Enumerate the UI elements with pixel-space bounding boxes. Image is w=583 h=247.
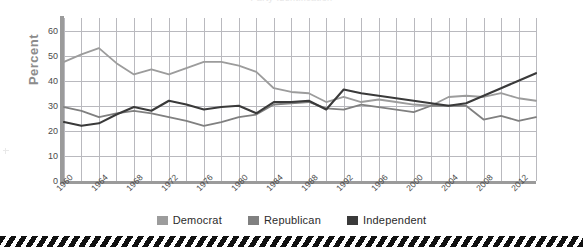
line-chart: Percent 6050403020100 196019641968197219… <box>0 6 583 228</box>
y-tick-label: 40 <box>26 77 58 86</box>
series-line-republican <box>64 102 536 126</box>
gridline-vertical <box>536 18 537 181</box>
y-tick-label: 10 <box>26 152 58 161</box>
y-axis-tick-labels: 6050403020100 <box>22 18 58 181</box>
y-tick-label: 60 <box>26 27 58 36</box>
legend-swatch-icon <box>157 216 168 225</box>
series-line-independent <box>64 73 536 126</box>
bottom-hazard-stripe-band <box>0 234 583 247</box>
series-lines <box>64 18 536 181</box>
y-tick-label: 50 <box>26 52 58 61</box>
y-tick-label: 30 <box>26 102 58 111</box>
y-tick-label: 0 <box>26 177 58 186</box>
legend-swatch-icon <box>347 216 358 225</box>
legend-item-republican[interactable]: Republican <box>248 214 321 226</box>
plot-area <box>64 18 536 181</box>
plot-background <box>64 18 536 181</box>
legend-label: Independent <box>363 214 426 226</box>
legend-item-democrat[interactable]: Democrat <box>157 214 222 226</box>
chart-legend: DemocratRepublicanIndependent <box>0 211 583 229</box>
legend-label: Republican <box>264 214 321 226</box>
series-line-democrat <box>64 48 536 106</box>
legend-swatch-icon <box>248 216 259 225</box>
y-tick-label: 20 <box>26 127 58 136</box>
chart-title-text: Party Identification <box>0 0 583 3</box>
chart-screenshot: Party Identification Percent 60504030201… <box>0 0 583 247</box>
legend-label: Democrat <box>173 214 222 226</box>
legend-item-independent[interactable]: Independent <box>347 214 426 226</box>
crop-mark-artifact <box>3 148 9 154</box>
